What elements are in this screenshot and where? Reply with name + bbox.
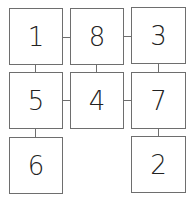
box-label: 7 (150, 86, 167, 116)
box-label: 6 (28, 151, 45, 181)
box-label: 8 (89, 22, 106, 52)
connector-5-4 (62, 100, 70, 101)
box-label: 4 (89, 86, 106, 116)
connector-8-4 (96, 64, 97, 72)
connector-7-2 (158, 128, 159, 136)
box-5: 5 (9, 72, 63, 129)
box-4: 4 (70, 72, 124, 129)
connector-3-7 (158, 63, 159, 72)
connector-5-6 (35, 128, 36, 137)
box-2: 2 (131, 136, 186, 193)
box-6: 6 (9, 137, 63, 194)
connector-4-7 (123, 100, 131, 101)
connector-1-8 (62, 37, 70, 38)
box-7: 7 (131, 72, 186, 129)
box-1: 1 (9, 8, 63, 65)
box-label: 1 (28, 22, 45, 52)
connector-8-3 (123, 36, 131, 37)
box-label: 2 (150, 150, 167, 180)
connector-1-5 (35, 64, 36, 72)
box-label: 3 (150, 21, 167, 51)
box-3: 3 (131, 7, 186, 64)
box-label: 5 (28, 86, 45, 116)
box-8: 8 (70, 8, 124, 65)
